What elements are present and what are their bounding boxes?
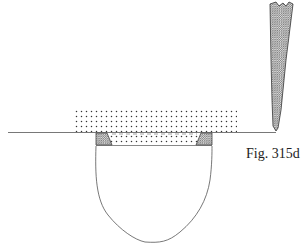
bowl-cavity bbox=[96, 146, 212, 242]
pointed-instrument bbox=[270, 2, 293, 131]
figure-caption: Fig. 315d bbox=[246, 146, 300, 162]
diagram-figure bbox=[0, 0, 308, 243]
